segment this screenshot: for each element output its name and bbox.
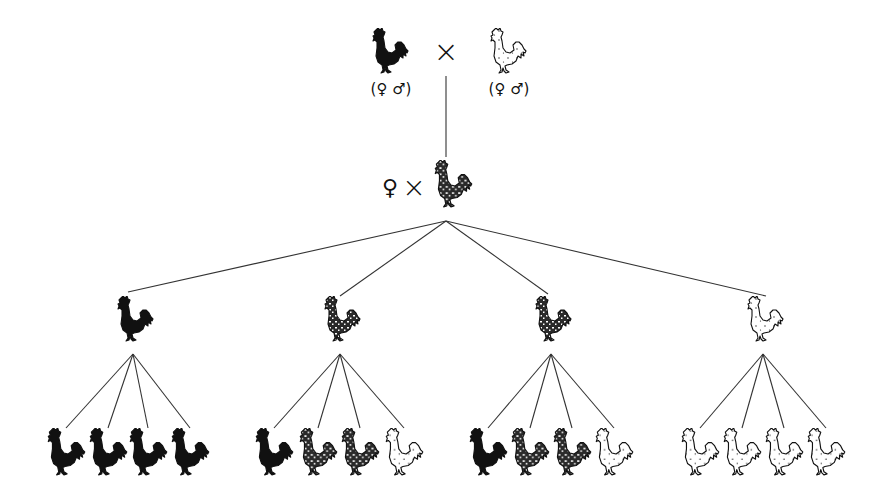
rooster-icon-offspring-2-4-white: [386, 428, 422, 475]
rooster-icon-offspring-3-3-mottled: [554, 428, 590, 475]
rooster-icon-offspring-2-1-black: [256, 428, 292, 475]
line-f1-to-g2-4: [446, 221, 766, 296]
line-g2-4-to-offspring-4: [763, 354, 826, 428]
line-g2-2-to-offspring-1: [274, 354, 340, 428]
rooster-icon-offspring-3-4-white: [596, 428, 632, 475]
line-f1-to-g2-1: [128, 221, 446, 292]
line-g2-3-to-offspring-1: [488, 354, 551, 428]
line-g2-3-to-offspring-4: [551, 354, 614, 428]
line-f1-to-g2-3: [446, 221, 548, 294]
rooster-icon-g2-2-mottled: [325, 296, 360, 341]
f1-generation: ♀ ×: [382, 160, 472, 207]
line-g2-3-to-offspring-3: [551, 354, 572, 428]
female-symbol: ♀: [382, 175, 398, 200]
rooster-icon-offspring-4-2-white: [724, 428, 760, 475]
parent-sex-label-left: (♀ ♂): [371, 80, 412, 98]
connector-lines: [66, 76, 826, 428]
rooster-icon-offspring-4-4-white: [808, 428, 844, 475]
line-g2-2-to-offspring-2: [318, 354, 340, 428]
rooster-icon-offspring-1-1-black: [48, 428, 84, 475]
rooster-icon-offspring-1-2-black: [90, 428, 126, 475]
line-g2-3-to-offspring-2: [530, 354, 551, 428]
rooster-icon-offspring-3-2-mottled: [512, 428, 548, 475]
line-f1-to-g2-2: [340, 221, 446, 296]
line-g2-4-to-offspring-3: [763, 354, 784, 428]
inheritance-diagram: × (♀ ♂) (♀ ♂) ♀ ×: [0, 0, 892, 504]
rooster-icon-white-parent: [491, 28, 526, 73]
rooster-icon-offspring-1-4-black: [172, 428, 208, 475]
rooster-icon-offspring-2-3-mottled: [342, 428, 378, 475]
parent-generation: × (♀ ♂) (♀ ♂): [371, 28, 530, 98]
second-generation: [48, 296, 844, 475]
rooster-icon-offspring-3-1-black: [470, 428, 506, 475]
rooster-icon-g2-1-black: [118, 296, 153, 341]
rooster-icon-offspring-4-3-white: [766, 428, 802, 475]
rooster-icon-g2-4-white: [748, 296, 783, 341]
line-g2-4-to-offspring-2: [742, 354, 763, 428]
rooster-icon-offspring-4-1-white: [682, 428, 718, 475]
rooster-icon-g2-3-mottled: [536, 296, 571, 341]
line-g2-1-to-offspring-4: [133, 354, 190, 428]
rooster-icon-offspring-2-2-mottled: [300, 428, 336, 475]
rooster-icon-offspring-1-3-black: [130, 428, 166, 475]
cross-symbol: ×: [433, 34, 458, 69]
line-g2-1-to-offspring-1: [66, 354, 133, 428]
line-g2-4-to-offspring-1: [700, 354, 763, 428]
rooster-icon-black-parent: [373, 28, 408, 73]
f1-cross-symbol: ×: [402, 171, 425, 204]
rooster-icon-f1-mottled: [435, 160, 471, 207]
line-g2-1-to-offspring-2: [108, 354, 133, 428]
parent-sex-label-right: (♀ ♂): [489, 80, 530, 98]
line-g2-1-to-offspring-3: [133, 354, 148, 428]
